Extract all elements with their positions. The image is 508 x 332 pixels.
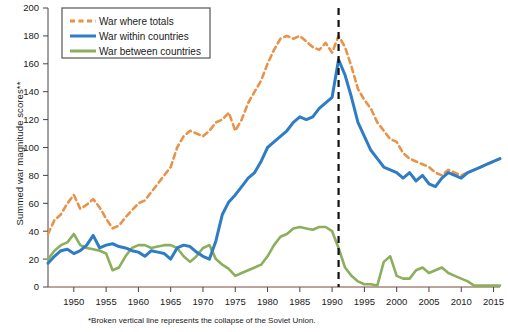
y-tick-label: 180 — [23, 30, 39, 41]
legend: War where totalsWar within countriesWar … — [62, 8, 210, 58]
y-axis-ticks: 020406080100120140160180200 — [23, 2, 48, 292]
x-tick-label: 1985 — [289, 296, 310, 307]
x-tick-label: 2000 — [386, 296, 407, 307]
series-line-within — [48, 60, 500, 264]
y-tick-label: 80 — [28, 170, 39, 181]
x-tick-label: 1975 — [225, 296, 246, 307]
x-tick-label: 2005 — [418, 296, 439, 307]
series-line-totals — [48, 36, 500, 234]
x-tick-label: 1990 — [322, 296, 343, 307]
y-tick-label: 100 — [23, 142, 39, 153]
x-tick-label: 2010 — [451, 296, 472, 307]
x-tick-label: 1970 — [192, 296, 213, 307]
y-tick-label: 0 — [34, 281, 39, 292]
x-axis-ticks: 1950195519601965197019751980198519901995… — [63, 287, 504, 307]
y-tick-label: 60 — [28, 198, 39, 209]
y-tick-label: 200 — [23, 2, 39, 13]
x-tick-label: 2015 — [483, 296, 504, 307]
x-tick-label: 1955 — [96, 296, 117, 307]
war-magnitude-chart: Summed war magnitude scores** 0204060801… — [0, 0, 508, 332]
data-series-layer — [48, 36, 500, 286]
legend-label-2: War between countries — [99, 46, 201, 57]
legend-label-1: War within countries — [99, 31, 189, 42]
y-tick-label: 140 — [23, 86, 39, 97]
y-tick-label: 120 — [23, 114, 39, 125]
y-tick-label: 20 — [28, 254, 39, 265]
x-tick-label: 1950 — [63, 296, 84, 307]
legend-label-0: War where totals — [99, 16, 174, 27]
x-tick-label: 1995 — [354, 296, 375, 307]
chart-footnote: *Broken vertical line represents the col… — [88, 316, 316, 325]
series-line-between — [48, 227, 500, 286]
y-axis-title: Summed war magnitude scores** — [14, 39, 25, 269]
x-tick-label: 1965 — [160, 296, 181, 307]
x-tick-label: 1960 — [128, 296, 149, 307]
x-tick-label: 1980 — [257, 296, 278, 307]
chart-canvas: 020406080100120140160180200 195019551960… — [0, 0, 508, 332]
y-tick-label: 160 — [23, 58, 39, 69]
y-tick-label: 40 — [28, 226, 39, 237]
